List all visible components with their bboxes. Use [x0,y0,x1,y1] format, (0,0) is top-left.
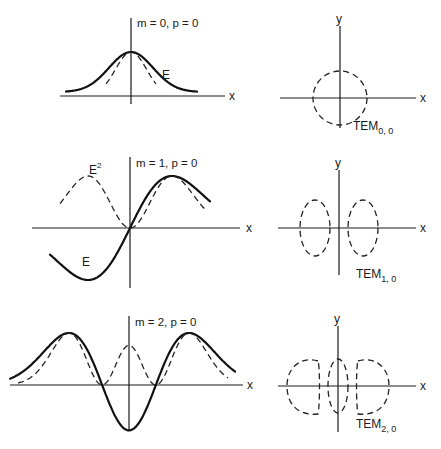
x-axis-label: x [229,89,235,103]
x-axis-label: x [420,221,426,235]
x-axis-label: x [247,378,253,392]
profile-plot-m0: x m = 0, p = 0 E [60,17,235,104]
x-axis-label: x [246,221,252,235]
profile-plot-m2: x m = 2, p = 0 [10,316,253,430]
mode-label: m = 2, p = 0 [135,316,196,328]
field-curve [10,333,235,430]
mode-label: m = 0, p = 0 [137,17,198,29]
profile-plot-m1: x m = 1, p = 0 E2 E [32,157,252,288]
intensity-curve [18,333,228,385]
mode-name: TEM0, 0 [353,119,393,136]
pattern-plot-tem20: y x TEM2, 0 [278,312,426,434]
y-axis-label: y [335,156,341,170]
mode-label: m = 1, p = 0 [136,157,197,169]
field-label: E [82,255,90,269]
row-m2: x m = 2, p = 0 y x TEM2, 0 [10,312,426,434]
row-m1: x m = 1, p = 0 E2 E y x TEM1, 0 [32,156,426,288]
intensity-curve [60,176,205,228]
pattern-plot-tem10: y x TEM1, 0 [278,156,426,284]
mode-name: TEM2, 0 [356,417,396,434]
y-axis-label: y [336,12,342,26]
field-label: E [162,68,170,82]
row-m0: x m = 0, p = 0 E y x TEM0, 0 [60,12,426,136]
x-axis-label: x [420,379,426,393]
pattern-plot-tem00: y x TEM0, 0 [280,12,426,136]
intensity-lobe-right [357,360,390,414]
tem-modes-diagram: x m = 0, p = 0 E y x TEM0, 0 x m = 1, p … [0,0,441,449]
intensity-label: E2 [89,161,102,177]
mode-name: TEM1, 0 [356,267,396,284]
x-axis-label: x [420,91,426,105]
y-axis-label: y [334,312,340,326]
intensity-lobe-left [287,360,320,414]
